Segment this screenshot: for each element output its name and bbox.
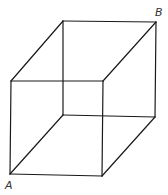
edge-front-right xyxy=(102,81,103,176)
edge-connect-bottom-right xyxy=(102,117,155,176)
cube-diagram: A B xyxy=(0,0,168,195)
vertex-label-a: A xyxy=(4,179,13,192)
edge-front-left xyxy=(10,81,11,174)
cube-edges xyxy=(10,21,156,176)
edge-back-bottom xyxy=(63,115,155,117)
vertex-label-b: B xyxy=(155,6,163,19)
edge-connect-top-left xyxy=(11,21,63,81)
edge-front-bottom xyxy=(10,174,102,176)
edge-back-top xyxy=(63,21,156,22)
edge-connect-bottom-left xyxy=(10,115,63,174)
edge-back-right xyxy=(155,22,156,117)
edge-connect-top-right xyxy=(103,22,156,81)
